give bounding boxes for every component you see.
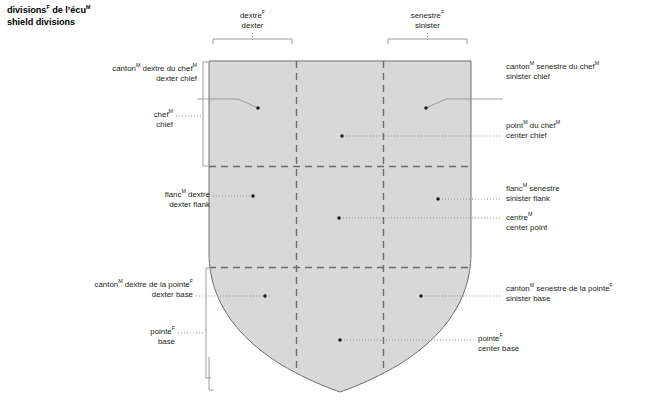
gender-marker: F	[262, 9, 265, 15]
label-center-chief: pointM du chefM center chief	[506, 121, 560, 142]
bracket-chief	[203, 62, 208, 166]
bracket-overall-base	[209, 357, 214, 390]
anchor-dot-center-base	[338, 338, 341, 341]
gender-marker: M	[595, 60, 599, 66]
gender-marker: F	[172, 325, 175, 331]
label-sinister-flank-fr: flancM senestre	[506, 184, 560, 194]
label-sinister-chief-en: sinister chief	[506, 72, 599, 82]
label-dexter-en: dexter	[217, 21, 288, 31]
bottom-bracket	[209, 357, 214, 390]
page-title: divisionsF de l’écuM shield divisions	[7, 5, 90, 28]
label-center-chief-fr: pointM du chefM	[506, 121, 560, 131]
anchor-dot-dexter-base	[263, 294, 266, 297]
gender-marker: M	[528, 211, 532, 217]
label-sinister-en: sinister	[392, 21, 463, 31]
label-dexter-base-en: dexter base	[0, 290, 193, 300]
diagram-canvas: divisionsF de l’écuM shield divisions de…	[0, 0, 650, 406]
label-dexter-chief-en: dexter chief	[0, 74, 197, 84]
label-base-en: base	[0, 337, 175, 347]
gender-marker: F	[610, 282, 613, 288]
gender-marker: F	[500, 332, 503, 338]
label-dexter-base: cantonM dextre de la pointeF dexter base	[0, 280, 193, 301]
label-center-point-en: center point	[506, 223, 547, 233]
title-line-english: shield divisions	[7, 17, 90, 29]
label-center-base: pointeF center base	[478, 334, 519, 355]
label-dexter-fr: dextreF	[217, 11, 288, 21]
label-center-base-en: center base	[478, 344, 519, 354]
gender-marker: M	[556, 119, 560, 125]
label-center-point-fr: centreM	[506, 213, 547, 223]
label-center-point: centreM center point	[506, 213, 547, 234]
label-chief-fr: chefM	[0, 110, 173, 120]
label-center-base-fr: pointeF	[478, 334, 519, 344]
label-sinister-base-en: sinister base	[506, 294, 613, 304]
label-sinister-chief-fr: cantonM senestre du chefM	[506, 62, 599, 72]
label-base-fr: pointeF	[0, 327, 175, 337]
label-dexter-chief: cantonM dextre du chefM dexter chief	[0, 64, 197, 85]
anchor-dot-center-point	[337, 216, 340, 219]
gender-marker: F	[190, 278, 193, 284]
label-center-chief-en: center chief	[506, 131, 560, 141]
anchor-dot-center-chief	[340, 134, 343, 137]
label-sinister-flank-en: sinister flank	[506, 194, 560, 204]
label-dexter: dextreF dexter	[217, 11, 288, 32]
label-sinister-chief: cantonM senestre du chefM sinister chief	[506, 62, 599, 83]
top-brackets	[213, 39, 467, 44]
anchor-dot-dexter-chief	[256, 106, 259, 109]
label-chief-en: chief	[0, 120, 173, 130]
title-line-french: divisionsF de l’écuM	[7, 5, 90, 17]
label-dexter-flank-en: dexter flank	[0, 200, 210, 210]
label-base: pointeF base	[0, 327, 175, 348]
label-dexter-base-fr: cantonM dextre de la pointeF	[0, 280, 193, 290]
label-sinister-fr: senestreF	[392, 11, 463, 21]
anchor-dot-sinister-chief	[424, 106, 427, 109]
gender-marker: M	[86, 4, 90, 10]
label-sinister-base: cantonM senestre de la pointeF sinister …	[506, 284, 613, 305]
label-sinister: senestreF sinister	[392, 11, 463, 32]
label-dexter-chief-fr: cantonM dextre du chefM	[0, 64, 197, 74]
anchor-dot-sinister-base	[419, 294, 422, 297]
label-sinister-flank: flancM senestre sinister flank	[506, 184, 560, 205]
label-sinister-base-fr: cantonM senestre de la pointeF	[506, 284, 613, 294]
label-dexter-flank-fr: flancM dextre	[0, 190, 210, 200]
label-dexter-flank: flancM dextre dexter flank	[0, 190, 210, 211]
anchor-dot-dexter-flank	[251, 194, 254, 197]
shield-shape	[209, 61, 471, 392]
gender-marker: M	[193, 62, 197, 68]
gender-marker: M	[169, 108, 173, 114]
label-chief: chefM chief	[0, 110, 173, 131]
anchor-dot-sinister-flank	[436, 197, 439, 200]
gender-marker: F	[441, 9, 444, 15]
